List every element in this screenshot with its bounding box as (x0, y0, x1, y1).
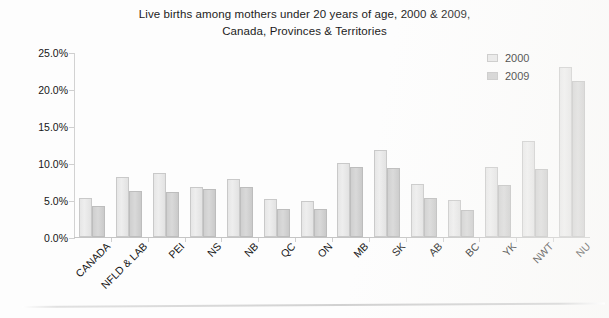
bar-sk-2009 (387, 168, 400, 237)
bar-group (227, 52, 253, 237)
x-axis-label-mb: MB (351, 240, 371, 260)
y-axis-tick (69, 201, 74, 202)
bar-yk-2000 (485, 167, 498, 237)
y-axis-tick (69, 53, 74, 54)
bar-group (153, 52, 179, 237)
bar-nu-2009 (572, 81, 585, 237)
y-axis-tick (69, 127, 74, 128)
bar-nwt-2009 (535, 169, 548, 237)
chart-title-line-2: Canada, Provinces & Territories (0, 23, 609, 40)
y-axis-tick (69, 164, 74, 165)
bar-canada-2009 (92, 206, 105, 237)
bar-qc-2009 (277, 209, 290, 237)
bar-mb-2009 (350, 167, 363, 237)
bar-pei-2000 (153, 173, 166, 237)
x-axis-label-sk: SK (389, 240, 407, 258)
x-axis-label-nb: NB (242, 240, 261, 259)
y-axis-tick-label: 5.0% (44, 195, 68, 207)
bar-group (448, 52, 474, 237)
x-axis-label-nwt: NWT (530, 240, 555, 265)
bar-canada-2000 (79, 198, 92, 237)
bar-pei-2009 (166, 192, 179, 237)
x-axis-label-bc: BC (463, 240, 482, 259)
y-axis-tick-label: 0.0% (44, 232, 68, 244)
bar-on-2000 (301, 201, 314, 237)
chart-title: Live births among mothers under 20 years… (0, 6, 609, 40)
y-axis-tick-label: 20.0% (38, 84, 68, 96)
bar-nb-2000 (227, 179, 240, 237)
x-axis-label-on: ON (314, 240, 334, 260)
x-axis-label-pei: PEI (166, 240, 186, 260)
y-axis-labels: 0.0%5.0%10.0%15.0%20.0%25.0% (18, 53, 68, 239)
bar-nfld-lab-2009 (129, 191, 142, 237)
bar-group (264, 52, 290, 237)
bar-on-2009 (314, 209, 327, 237)
bar-yk-2009 (498, 185, 511, 237)
bar-group (190, 52, 216, 237)
bar-nu-2000 (559, 67, 572, 237)
bar-ns-2009 (203, 189, 216, 237)
bar-nfld-lab-2000 (116, 177, 129, 237)
bar-group (559, 52, 585, 237)
bar-sk-2000 (374, 150, 387, 237)
bar-group (337, 52, 363, 237)
chart-page: Live births among mothers under 20 years… (0, 0, 609, 318)
bar-ab-2000 (411, 184, 424, 237)
plot-area (74, 53, 590, 238)
y-axis-tick (69, 238, 74, 239)
y-axis-tick-label: 10.0% (38, 158, 68, 170)
y-axis-tick (69, 90, 74, 91)
x-axis-label-ns: NS (205, 240, 224, 259)
y-axis-tick-label: 15.0% (38, 121, 68, 133)
x-axis-label-ab: AB (426, 240, 444, 258)
bar-ab-2009 (424, 198, 437, 237)
bar-group (485, 52, 511, 237)
bar-nb-2009 (240, 187, 253, 237)
bar-group (116, 52, 142, 237)
bar-qc-2000 (264, 199, 277, 237)
bar-ns-2000 (190, 187, 203, 237)
y-axis-tick-label: 25.0% (38, 47, 68, 59)
bar-group (411, 52, 437, 237)
chart-title-line-1: Live births among mothers under 20 years… (0, 6, 609, 23)
bar-nwt-2000 (522, 141, 535, 237)
bar-bc-2009 (461, 210, 474, 237)
x-axis-label-qc: QC (278, 240, 298, 260)
bar-group (374, 52, 400, 237)
bar-group (522, 52, 548, 237)
x-axis-label-yk: YK (500, 240, 518, 258)
bar-bc-2000 (448, 200, 461, 237)
x-axis-labels: CANADANFLD & LABPEINSNBQCONMBSKABBCYKNWT… (74, 240, 590, 310)
bar-group (79, 52, 105, 237)
y-axis-line (74, 53, 75, 239)
bar-group (301, 52, 327, 237)
x-axis-label-nu: NU (573, 240, 592, 259)
bar-mb-2000 (337, 163, 350, 237)
